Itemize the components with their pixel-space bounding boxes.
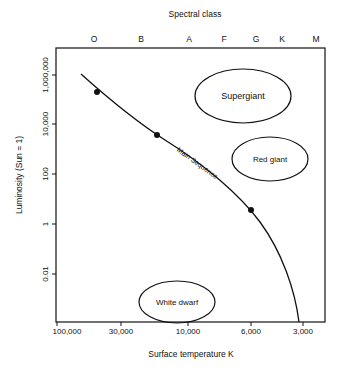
main-sequence-point <box>94 89 100 95</box>
spectral-class-labels: OBAFGKM <box>91 34 320 44</box>
spectral-class-b: B <box>138 34 144 44</box>
supergiant-label: Supergiant <box>221 91 265 101</box>
main-sequence-label: Main Sequence <box>175 146 219 181</box>
x-tick-label: 100,000 <box>53 327 82 336</box>
y-axis-title: Luminosity (Sun = 1) <box>14 136 24 214</box>
main-sequence-point <box>154 132 160 138</box>
y-tick-label: 1 <box>41 221 50 226</box>
region-supergiant: Supergiant <box>195 69 291 123</box>
region-red-giant: Red giant <box>232 137 308 181</box>
white-dwarf-label: White dwarf <box>156 298 199 307</box>
y-tick-label: 1,000,000 <box>41 57 50 93</box>
spectral-class-a: A <box>186 34 192 44</box>
y-tick-label: 10,000 <box>41 111 50 136</box>
star-regions: SupergiantRed giantWhite dwarf <box>139 69 308 323</box>
x-tick-label: 10,000 <box>176 327 201 336</box>
x-axis-ticks: 100,00030,00010,0006,0003,000 <box>53 322 314 336</box>
spectral-class-g: G <box>253 34 260 44</box>
spectral-class-f: F <box>221 34 226 44</box>
red-giant-label: Red giant <box>253 155 288 164</box>
x-tick-label: 6,000 <box>241 327 262 336</box>
x-tick-label: 3,000 <box>293 327 314 336</box>
hr-diagram: Spectral class OBAFGKM 1,000,00010,00010… <box>0 0 340 372</box>
x-axis-title: Surface temperature K <box>148 349 234 359</box>
x-tick-label: 30,000 <box>109 327 134 336</box>
spectral-class-m: M <box>312 34 319 44</box>
main-sequence-points <box>94 89 254 213</box>
main-sequence-point <box>248 207 254 213</box>
spectral-class-o: O <box>91 34 98 44</box>
y-axis-ticks: 1,000,00010,00010010.01 <box>41 57 56 282</box>
y-tick-label: 0.01 <box>41 266 50 282</box>
main-sequence-curve <box>81 74 299 322</box>
region-white-dwarf: White dwarf <box>139 281 215 323</box>
spectral-class-k: K <box>279 34 285 44</box>
y-tick-label: 100 <box>41 167 50 181</box>
top-axis-title: Spectral class <box>169 9 222 19</box>
